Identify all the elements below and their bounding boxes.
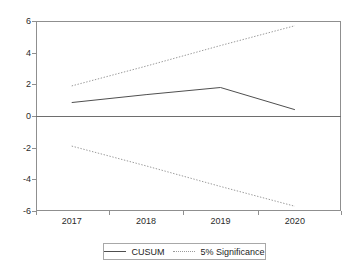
x-tick-label: 2018 xyxy=(136,216,156,226)
y-tick-label: -2 xyxy=(0,143,31,152)
legend-entry: CUSUM xyxy=(104,244,164,259)
y-tick-label: -4 xyxy=(0,175,31,184)
x-tick-mark xyxy=(183,211,184,215)
legend-swatch-line xyxy=(104,251,126,252)
upper-significance-line xyxy=(72,26,295,86)
y-tick-label: -6 xyxy=(0,207,31,216)
x-tick-label: 2019 xyxy=(210,216,230,226)
lower-significance-line xyxy=(72,146,295,206)
chart-legend: CUSUM5% Significance xyxy=(103,243,266,260)
x-axis: 2017201820192020 xyxy=(36,214,341,230)
y-tick-label: 4 xyxy=(0,48,31,57)
x-tick-mark xyxy=(36,211,37,215)
y-axis: 6420-2-4-6 xyxy=(0,21,31,211)
legend-swatch-solid xyxy=(104,248,126,255)
legend-swatch-line xyxy=(173,251,195,252)
legend-label: CUSUM xyxy=(131,247,164,257)
legend-swatch-dotted xyxy=(173,248,195,255)
y-tick-mark xyxy=(32,21,36,22)
legend-entry: 5% Significance xyxy=(173,244,264,259)
y-tick-label: 0 xyxy=(0,112,31,121)
plot-series-canvas xyxy=(36,21,341,211)
legend-label: 5% Significance xyxy=(200,247,264,257)
series-upper-significance xyxy=(72,26,295,86)
x-tick-label: 2017 xyxy=(62,216,82,226)
y-tick-mark xyxy=(32,84,36,85)
y-tick-label: 2 xyxy=(0,80,31,89)
x-tick-mark xyxy=(341,211,342,215)
x-tick-label: 2020 xyxy=(285,216,305,226)
y-tick-mark xyxy=(32,179,36,180)
cusum-line xyxy=(72,88,295,110)
y-tick-label: 6 xyxy=(0,17,31,26)
series-lower-significance xyxy=(72,146,295,206)
y-tick-mark xyxy=(32,116,36,117)
cusum-chart: 6420-2-4-6 2017201820192020 CUSUM5% Sign… xyxy=(0,0,357,272)
series-cusum xyxy=(72,88,295,110)
y-tick-mark xyxy=(32,53,36,54)
x-tick-mark xyxy=(109,211,110,215)
y-tick-mark xyxy=(32,148,36,149)
x-tick-mark xyxy=(258,211,259,215)
